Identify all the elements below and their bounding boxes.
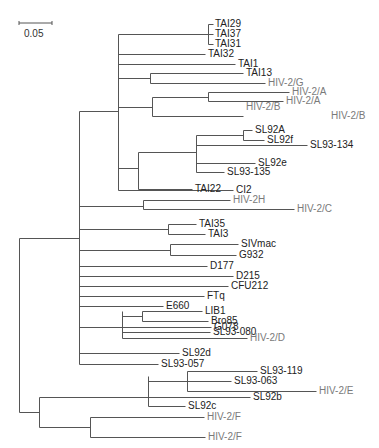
leaf-label: D177 <box>210 261 234 271</box>
leaf-label: TAI22 <box>195 184 221 194</box>
leaf-label: SL93-134 <box>310 140 353 150</box>
leaf-label: HIV-2/B <box>331 111 365 121</box>
leaf-label: HIV-2/A <box>286 96 320 106</box>
leaf-label: G932 <box>239 250 263 260</box>
leaf-label: SL92c <box>188 401 216 411</box>
leaf-label: TAI3 <box>208 229 228 239</box>
leaf-label: SL92d <box>182 348 211 358</box>
leaf-label: HIV-2/E <box>319 386 353 396</box>
leaf-label: CFU212 <box>231 281 268 291</box>
scale-bar <box>19 21 52 25</box>
leaf-label: E660 <box>166 301 189 311</box>
leaf-label: HIV-2/F <box>207 412 241 422</box>
leaf-label: HIV-2/D <box>250 333 285 343</box>
leaf-label: SL92b <box>253 392 282 402</box>
leaf-label: SIVmac <box>241 239 276 249</box>
phylogenetic-tree <box>0 0 379 448</box>
leaf-label: SL92f <box>267 135 293 145</box>
leaf-label: FTq <box>207 291 225 301</box>
leaf-label: TAI32 <box>208 49 234 59</box>
leaf-label: HIV-2/B <box>246 102 280 112</box>
leaf-label: SL93-057 <box>161 359 204 369</box>
leaf-label: SL93-135 <box>227 167 270 177</box>
leaf-label: HIV-2/C <box>297 204 332 214</box>
leaf-label: HIV-2/F <box>208 432 242 442</box>
leaf-label: HIV-2H <box>233 195 265 205</box>
leaf-label: SL93-063 <box>234 376 277 386</box>
scale-bar-label: 0.05 <box>24 28 43 39</box>
